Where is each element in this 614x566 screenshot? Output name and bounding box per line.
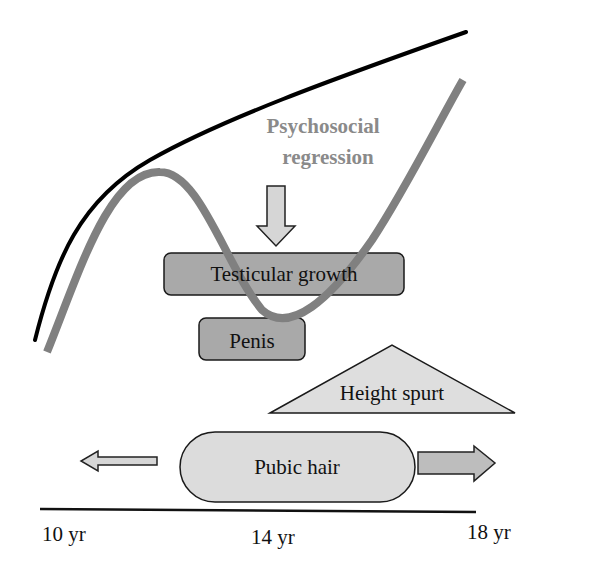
pubic-hair-label: Pubic hair [254,455,340,479]
psychosocial-label: Psychosocial [266,114,379,138]
left-arrow-icon [81,451,157,471]
penis-label: Penis [229,329,275,353]
down-arrow-icon [257,186,295,246]
tick-14yr: 14 yr [251,525,295,549]
right-arrow-icon [418,446,495,481]
height-spurt-label: Height spurt [340,381,445,405]
tick-10yr: 10 yr [42,522,86,546]
puberty-diagram: Psychosocial regression Testicular growt… [0,0,614,566]
psychosocial-regression-curve [47,80,463,352]
tick-18yr: 18 yr [467,520,511,544]
testicular-growth-label: Testicular growth [210,262,358,286]
age-axis-line [40,509,476,512]
diagram-canvas: Psychosocial regression Testicular growt… [0,0,614,566]
regression-label: regression [282,145,374,169]
